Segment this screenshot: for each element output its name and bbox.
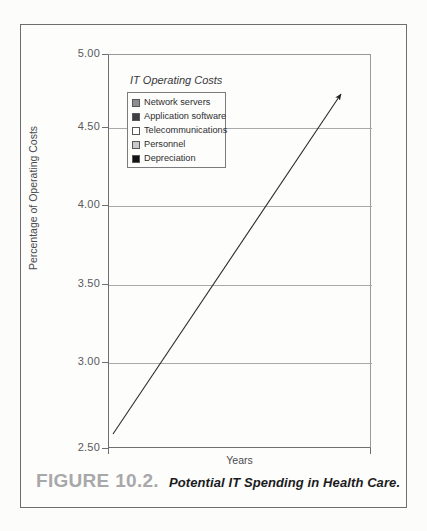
figure-canvas: 5.00 4.50 4.00 3.50 3.00 2.50 Percentage… — [0, 0, 427, 531]
legend-swatch-personnel — [132, 141, 140, 149]
legend-item-depreciation[interactable]: Depreciation — [132, 152, 221, 166]
ytick-label-5-00: 5.00 — [56, 47, 100, 59]
ytick-mark-4-00 — [102, 205, 108, 206]
ytick-mark-4-50 — [102, 127, 108, 128]
legend-label-personnel: Personnel — [144, 140, 185, 149]
legend-swatch-application-software — [132, 113, 140, 121]
ytick-label-3-00: 3.00 — [56, 355, 100, 367]
legend-label-network-servers: Network servers — [144, 98, 210, 107]
legend-label-depreciation: Depreciation — [144, 154, 196, 163]
figure-caption-text: Potential IT Spending in Health Care. — [169, 475, 400, 490]
ytick-mark-3-50 — [102, 284, 108, 285]
ytick-mark-5-00 — [102, 54, 108, 55]
figure-caption-label: FIGURE 10.2. — [36, 470, 159, 492]
ytick-label-4-50: 4.50 — [56, 120, 100, 132]
y-axis-title: Percentage of Operating Costs — [27, 118, 39, 278]
legend-label-application-software: Application software — [144, 112, 226, 121]
legend-item-application-software[interactable]: Application software — [132, 110, 221, 124]
legend-item-telecommunications[interactable]: Telecommunications — [132, 124, 221, 138]
figure-caption: FIGURE 10.2. Potential IT Spending in He… — [36, 470, 400, 492]
legend-swatch-network-servers — [132, 99, 140, 107]
legend-item-personnel[interactable]: Personnel — [132, 138, 221, 152]
legend-label-telecommunications: Telecommunications — [144, 126, 227, 135]
legend-swatch-depreciation — [132, 155, 140, 163]
legend-swatch-telecommunications — [132, 127, 140, 135]
legend-item-network-servers[interactable]: Network servers — [132, 96, 221, 110]
gridline-3-50 — [109, 285, 372, 286]
x-axis-title: Years — [108, 454, 371, 466]
ytick-label-4-00: 4.00 — [56, 198, 100, 210]
legend-title: IT Operating Costs — [130, 74, 222, 86]
gridline-4-00 — [109, 206, 372, 207]
ytick-label-2-50: 2.50 — [56, 441, 100, 453]
gridline-3-00 — [109, 363, 372, 364]
ytick-mark-3-00 — [102, 362, 108, 363]
legend-box: Network servers Application software Tel… — [127, 92, 226, 168]
ytick-label-3-50: 3.50 — [56, 277, 100, 289]
